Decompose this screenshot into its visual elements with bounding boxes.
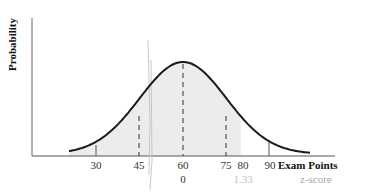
z-label-0: 0 <box>180 173 186 185</box>
x-axis-label: Exam Points <box>278 159 338 171</box>
tick-label-45: 45 <box>134 159 145 171</box>
z-score-axis-label: z-score <box>300 173 332 185</box>
normal-distribution-chart: Probability 30 45 60 75 80 90 Exam Point… <box>0 0 382 196</box>
tick-label-80: 80 <box>238 159 249 171</box>
tick-label-60: 60 <box>178 159 189 171</box>
tick-label-75: 75 <box>221 159 232 171</box>
y-axis-label: Probability <box>6 18 26 118</box>
tick-label-90: 90 <box>265 159 276 171</box>
tick-label-30: 30 <box>91 159 102 171</box>
z-label-1-33: 1.33 <box>233 173 252 185</box>
